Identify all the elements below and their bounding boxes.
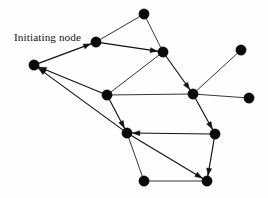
edge-arrowhead <box>207 122 213 130</box>
graph-node-dot <box>210 129 220 139</box>
arrowhead-layer <box>39 44 213 178</box>
graph-edge <box>196 53 238 92</box>
graph-node-dot <box>158 47 168 57</box>
graph-edge <box>37 67 124 130</box>
graph-edge <box>110 54 160 92</box>
edge-arrowhead <box>150 48 157 53</box>
edge-arrowhead <box>184 82 190 89</box>
edge-arrowhead <box>133 131 140 136</box>
graph-edge <box>197 94 245 97</box>
graph-edge <box>146 18 161 49</box>
graph-node-dot <box>29 60 39 70</box>
graph-edge <box>99 16 140 40</box>
graph-node-dot <box>188 89 198 99</box>
edge-arrowhead <box>119 121 125 129</box>
graph-node-dot <box>139 9 149 19</box>
graph-node-dot <box>236 45 246 55</box>
graph-node-dot <box>244 93 254 103</box>
graph-edge <box>111 94 189 95</box>
initiating-node-label: Initiating node <box>14 31 81 43</box>
graph-node-dot <box>139 176 149 186</box>
edge-arrowhead <box>207 168 212 176</box>
graph-edge <box>38 67 104 94</box>
edge-arrowhead <box>83 44 91 49</box>
graph-edge <box>131 133 211 134</box>
initiating-node-dot <box>91 37 101 47</box>
network-diagram-figure: Initiating node <box>0 0 268 198</box>
graph-node-dot <box>202 176 212 186</box>
graph-edge <box>128 137 142 177</box>
edge-arrowhead <box>195 172 202 178</box>
graph-node-dot <box>122 128 132 138</box>
network-graph-canvas <box>0 0 268 198</box>
graph-node-dot <box>102 90 112 100</box>
